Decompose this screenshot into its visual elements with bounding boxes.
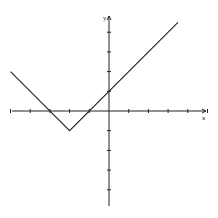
x-axis-label: x <box>202 114 205 121</box>
y-axis-label: y <box>103 14 106 21</box>
graph <box>0 0 218 218</box>
function-line <box>11 22 178 130</box>
